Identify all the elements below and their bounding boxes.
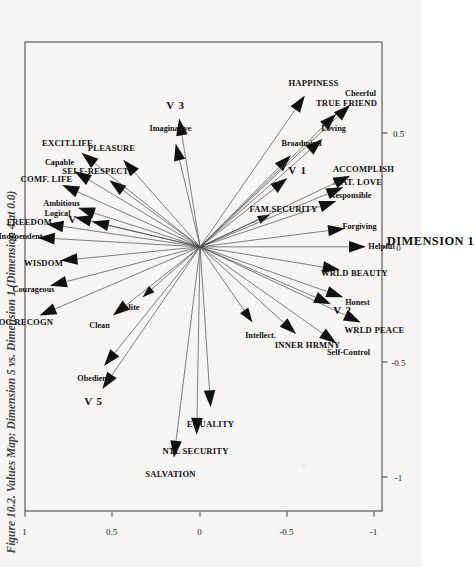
- figure-caption: Figure 10.2. Values Map: Dimension 5 vs.…: [4, 13, 16, 553]
- y-axis-tick-label: 1: [22, 526, 27, 536]
- vector-shaft: [200, 109, 295, 246]
- vector-arrowhead: [290, 95, 304, 112]
- vector-shaft: [176, 246, 200, 440]
- vector-label: Responsible: [329, 192, 371, 200]
- y-axis-tick: [199, 511, 200, 516]
- vector-label: EQUALITY: [186, 420, 233, 429]
- y-axis-tick: [111, 511, 112, 516]
- y-axis-tick-label: -0.5: [279, 526, 293, 536]
- vector-arrowhead: [349, 241, 366, 253]
- vector-label: FREEDOM: [6, 218, 51, 227]
- vector-arrowhead: [279, 318, 295, 334]
- y-axis-tick-label: -1: [370, 526, 378, 536]
- vector-label: Polite: [119, 304, 139, 312]
- vector-label: Obedient: [76, 375, 108, 383]
- vector-shaft: [126, 246, 200, 304]
- vector-label: Broadmind: [281, 140, 321, 148]
- vector-label: WRLD BEAUTY: [321, 269, 388, 278]
- vector-arrowhead: [325, 286, 343, 297]
- vector-arrowhead: [173, 143, 184, 161]
- vector-arrowhead: [62, 184, 80, 196]
- vector-label: Self-Control: [326, 349, 369, 357]
- vector-arrowhead: [81, 152, 98, 167]
- vector-label: Logical: [44, 210, 70, 218]
- vector-shaft: [200, 246, 209, 390]
- vector-label: V 3: [166, 100, 184, 111]
- vector-shaft: [94, 213, 200, 247]
- vector-label: MAT. LOVE: [332, 177, 381, 186]
- vector-label: HAPPINESS: [288, 79, 338, 88]
- vector-shaft: [88, 179, 199, 246]
- vector-label: Independent: [0, 233, 42, 241]
- vector-label: Clean: [89, 322, 109, 330]
- x-axis-title: DIMENSION 1: [386, 234, 473, 249]
- y-axis-tick-label: 0: [196, 526, 201, 536]
- vector-label: SOC RECOGN: [0, 318, 53, 327]
- y-axis-tick-label: 0.5: [106, 526, 117, 536]
- vector-label: SALVATION: [145, 470, 195, 479]
- vector-shaft: [181, 135, 199, 247]
- vector-shaft: [200, 246, 283, 322]
- y-axis-tick: [24, 511, 25, 516]
- vector-label: WRLD PEACE: [344, 326, 404, 335]
- vector-label: Intellect.: [245, 332, 276, 340]
- vector-shaft: [77, 246, 200, 258]
- vector-arrowhead: [270, 178, 287, 193]
- vector-arrowhead: [91, 219, 109, 230]
- x-axis-tick-label: -1: [394, 472, 402, 482]
- vector-label: PLEASURE: [87, 144, 134, 153]
- vector-arrowhead: [318, 200, 336, 211]
- vector-label: Ambitious: [43, 199, 79, 207]
- x-axis-tick: [382, 476, 387, 477]
- vector-shaft: [200, 183, 335, 247]
- vector-label: NTL SECURITY: [162, 447, 228, 456]
- x-axis-tick: [382, 132, 387, 133]
- vector-label: V 4: [68, 213, 86, 224]
- vector-label: Imaginative: [150, 125, 192, 133]
- vector-label: EXCIT.LIFE: [42, 139, 93, 148]
- vector-arrowhead: [109, 180, 126, 195]
- vector-shaft: [114, 246, 199, 352]
- vector-label: Cheerful: [345, 90, 376, 98]
- vector-label: SELF-RESPECT: [62, 167, 128, 176]
- y-axis-tick: [373, 511, 374, 516]
- vector-label: WISDOM: [24, 258, 63, 267]
- vector-label: Forgiving: [342, 223, 376, 231]
- x-axis-tick-label: -0.5: [391, 357, 405, 367]
- vector-label: V 5: [84, 396, 102, 407]
- vector-shaft: [200, 246, 322, 332]
- vector-shaft: [200, 246, 327, 291]
- vector-label: Courageous: [12, 286, 54, 294]
- vector-label: Honest: [345, 299, 370, 307]
- vector-label: ACCOMPLISH: [333, 165, 394, 174]
- x-axis-tick: [382, 361, 387, 362]
- vector-label: TRUE FRIEND: [316, 99, 377, 108]
- y-axis-tick: [286, 511, 287, 516]
- vector-label: FAM.SECURITY: [249, 204, 317, 213]
- vector-shaft: [77, 191, 199, 246]
- vector-arrowhead: [203, 389, 215, 406]
- x-axis-tick-label: 0.5: [392, 128, 403, 138]
- vector-label: Loving: [321, 125, 346, 133]
- vector-arrowhead: [39, 303, 57, 315]
- vector-label: V 1: [288, 164, 306, 175]
- vector-arrowhead: [240, 307, 252, 322]
- vector-shaft: [200, 246, 345, 314]
